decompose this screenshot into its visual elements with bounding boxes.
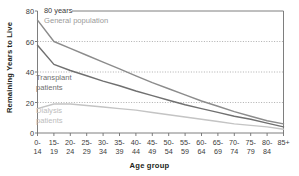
x-axis-title: Age group (0, 161, 299, 170)
series-label-dialysis-line2: patients (36, 116, 63, 125)
series-label-transplant-line2: patients (36, 83, 63, 92)
series-label-dialysis-line1: Dialysis (36, 106, 62, 115)
chart-container: Remaining Years to Live 80 60 40 20 0 80… (0, 0, 299, 176)
series-label-dialysis-patients: Dialysis patients (36, 106, 63, 125)
series-label-transplant-patients: Transplant patients (36, 73, 72, 92)
x-tick-line1: 85+ (273, 138, 295, 147)
x-tick-line2: 84 (256, 147, 278, 156)
series-label-transplant-line1: Transplant (36, 73, 72, 82)
series-label-general-population: General population (44, 16, 108, 26)
x-tick-85+: 85+ (273, 138, 295, 147)
